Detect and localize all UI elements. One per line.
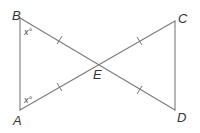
vertex-label-e: E [93,67,102,82]
angle-label-a: x° [23,95,33,105]
angle-label-b: x° [23,27,33,37]
geometry-diagram: B A E C D x° x° [0,0,200,133]
tick-mark-ae [57,83,62,91]
vertex-label-b: B [12,8,21,23]
vertex-label-d: D [177,110,186,125]
vertex-label-a: A [12,113,22,128]
vertex-label-c: C [178,11,188,26]
